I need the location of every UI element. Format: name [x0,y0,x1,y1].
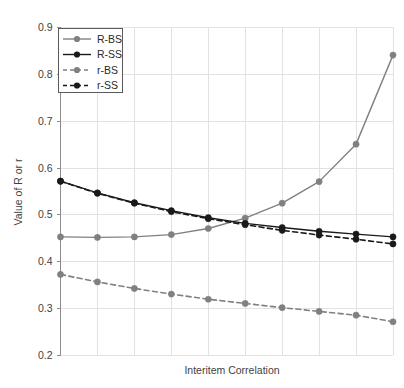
data-point [242,300,248,306]
y-tick-label: 0.2 [38,349,53,361]
y-tick-label: 0.3 [38,302,53,314]
data-point [131,200,137,206]
data-point [279,200,285,206]
data-point [316,308,322,314]
y-tick-label: 0.9 [38,21,53,33]
data-point [57,178,63,184]
legend-marker [74,36,80,42]
legend-label: R-BS [97,33,122,45]
data-point [94,190,100,196]
data-point [390,52,396,58]
data-point [57,234,63,240]
data-point [205,216,211,222]
data-point [205,225,211,231]
data-point [57,271,63,277]
chart-legend: R-BSR-SSr-BSr-SS [59,29,123,93]
chart-container: 0.20.30.40.50.60.70.80.9 Value of R or r… [0,0,404,388]
data-point [316,179,322,185]
data-point [205,296,211,302]
data-point [94,279,100,285]
data-point [242,222,248,228]
data-point [131,285,137,291]
data-point [168,291,174,297]
data-point [279,305,285,311]
data-point [390,319,396,325]
line-chart: 0.20.30.40.50.60.70.80.9 Value of R or r… [0,0,404,388]
y-tick-label: 0.5 [38,208,53,220]
data-point [279,227,285,233]
y-axis-title: Value of R or r [12,158,24,225]
legend-label: r-BS [97,64,118,76]
y-tick-label: 0.6 [38,162,53,174]
y-tick-label: 0.4 [38,255,53,267]
data-point [94,234,100,240]
data-point [168,209,174,215]
y-tick-label: 0.8 [38,68,53,80]
data-point [353,236,359,242]
legend-label: r-SS [97,79,118,91]
data-point [131,234,137,240]
data-point [353,141,359,147]
legend-marker [74,82,80,88]
data-point [353,312,359,318]
legend-marker [74,67,80,73]
y-tick-label: 0.7 [38,115,53,127]
data-point [390,234,396,240]
data-point [316,232,322,238]
data-point [168,231,174,237]
x-axis-title: Interitem Correlation [184,364,279,376]
legend-label: R-SS [97,48,122,60]
legend-marker [74,51,80,57]
data-point [390,241,396,247]
